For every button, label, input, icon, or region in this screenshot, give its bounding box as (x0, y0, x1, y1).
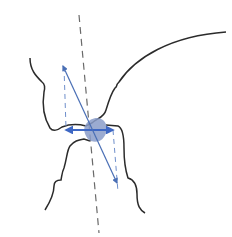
projection-left-line (64, 67, 66, 128)
upper-bone-outline (30, 32, 226, 130)
joint-diagram (0, 0, 232, 237)
joint-right-edge (106, 125, 145, 213)
lower-bone-outline (45, 139, 90, 210)
diagram-canvas (0, 0, 232, 237)
